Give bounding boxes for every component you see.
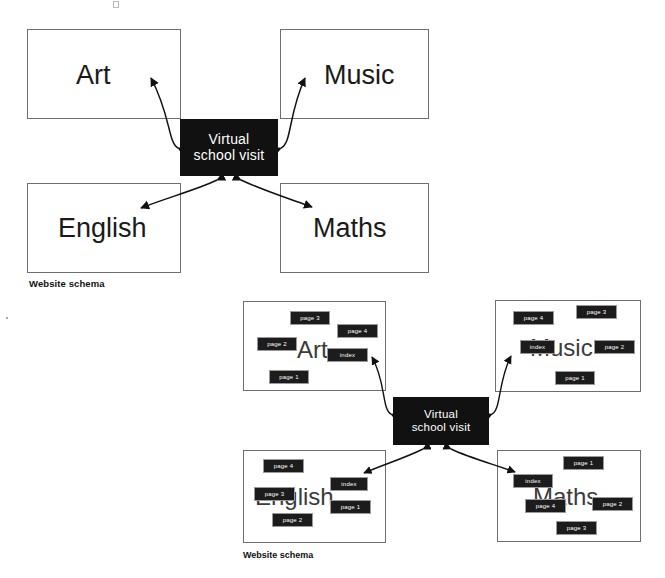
page-chip[interactable]: page 3 [556,521,597,535]
page-chip[interactable]: index [327,348,368,362]
page-chip[interactable]: page 1 [555,371,595,385]
bottom-schema-diagram: Art page 3 page 4 page 2 index page 1 Mu… [0,0,665,578]
page-chip[interactable]: page 1 [330,500,371,514]
page-chip[interactable]: page 2 [594,340,635,354]
page-chip[interactable]: page 4 [513,311,554,325]
hub-line-1: Virtual [424,408,458,421]
page-chip[interactable]: page 1 [269,370,309,384]
page-chip[interactable]: page 4 [263,459,304,473]
figure-canvas: Art Music English Maths Virtual school v… [0,0,665,578]
page-chip[interactable]: page 3 [290,311,330,325]
page-chip[interactable]: page 4 [337,324,378,338]
page-chip[interactable]: page 1 [563,456,604,470]
subject-label-art-detailed: Art [297,338,328,362]
bottom-caption-website-schema: Website schema [243,550,313,560]
page-chip[interactable]: page 3 [254,487,295,501]
page-chip[interactable]: index [513,474,553,488]
hub-virtual-school-visit-detailed[interactable]: Virtual school visit [393,397,489,445]
page-chip[interactable]: page 2 [592,497,633,511]
page-chip[interactable]: page 4 [525,499,566,513]
page-chip[interactable]: index [520,340,555,354]
page-chip[interactable]: page 3 [576,305,617,319]
page-chip[interactable]: page 2 [257,337,297,351]
page-chip[interactable]: index [330,477,368,491]
hub-line-2: school visit [412,421,471,434]
page-chip[interactable]: page 2 [272,513,313,527]
